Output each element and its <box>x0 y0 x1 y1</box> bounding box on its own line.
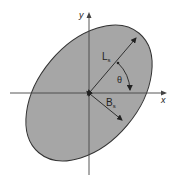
angle-arc-start-dot <box>117 62 120 65</box>
ellipse-diagram: x y Ls Bs θ <box>0 0 182 179</box>
y-axis-label: y <box>78 10 84 20</box>
y-axis-arrow-icon <box>87 12 92 18</box>
angle-label: θ <box>117 75 122 85</box>
x-axis-label: x <box>160 95 166 105</box>
